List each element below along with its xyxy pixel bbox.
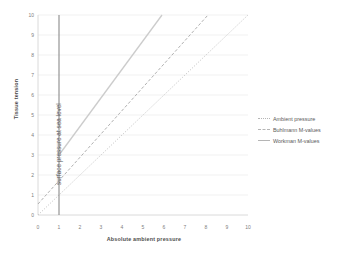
legend-item-workman-m-values[interactable]: Workman M-values — [258, 135, 350, 146]
legend-item-ambient-pressure[interactable]: Ambient pressure — [258, 113, 350, 124]
gridlines — [38, 15, 248, 195]
series-buhlmann-m-values — [38, 15, 208, 204]
chart-legend: Ambient pressure Buhlmann M-values Workm… — [258, 113, 350, 146]
surface-pressure-annotation: surface pressure at sea level — [55, 103, 62, 185]
series-workman-m-values — [59, 15, 162, 155]
legend-key-dotted-icon — [258, 116, 270, 122]
legend-label-buhlmann-m-values: Buhlmann M-values — [273, 127, 321, 133]
chart-container: Tissue tension Absolute ambient pressure… — [0, 0, 352, 258]
legend-label-workman-m-values: Workman M-values — [273, 138, 319, 144]
legend-item-buhlmann-m-values[interactable]: Buhlmann M-values — [258, 124, 350, 135]
legend-key-solid-icon — [258, 138, 270, 144]
legend-key-dashed-icon — [258, 127, 270, 133]
legend-label-ambient-pressure: Ambient pressure — [273, 116, 315, 122]
